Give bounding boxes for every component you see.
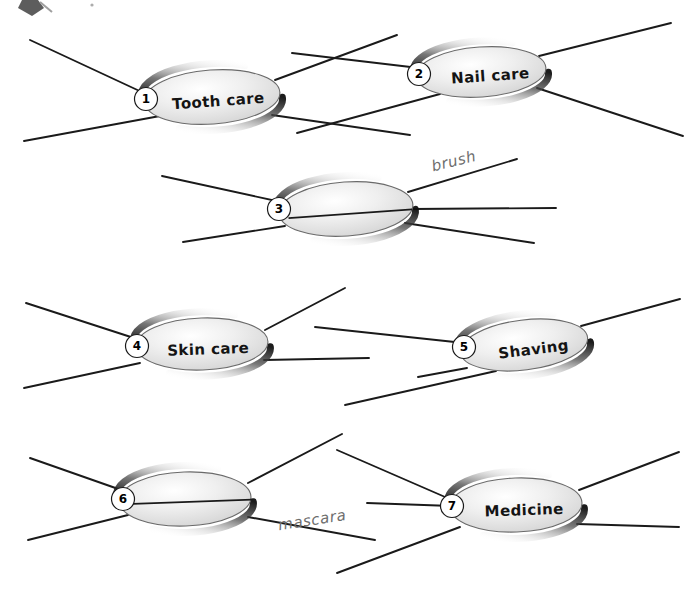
diagram-canvas: Tooth careNail careSkin careShavingMedic… bbox=[0, 0, 687, 591]
connector-line-3-5 bbox=[412, 208, 556, 209]
node-label-4: Skin care bbox=[167, 339, 250, 360]
node-label-7: Medicine bbox=[484, 500, 564, 521]
connector-line-2-4 bbox=[537, 88, 683, 136]
node-number-badge-6: 6 bbox=[112, 488, 135, 511]
node-number-badge-2: 2 bbox=[408, 63, 431, 86]
connector-line-6-2 bbox=[248, 434, 342, 483]
connector-line-1-3 bbox=[24, 116, 160, 141]
number-text-3: 3 bbox=[275, 202, 283, 216]
number-text-5: 5 bbox=[460, 340, 468, 354]
connector-line-1-4 bbox=[272, 115, 410, 135]
node-ellipse-6[interactable] bbox=[116, 463, 255, 535]
connector-line-4-2 bbox=[265, 288, 345, 330]
connector-line-4-1 bbox=[26, 303, 137, 339]
connector-line-5-1 bbox=[315, 327, 464, 343]
node-number-badge-1: 1 bbox=[135, 88, 158, 111]
handwritten-answer-brush: brush bbox=[430, 147, 479, 175]
connector-line-5-2 bbox=[581, 299, 680, 326]
connector-line-3-4 bbox=[405, 223, 534, 243]
connector-line-3-3 bbox=[183, 226, 285, 242]
node-ellipse-3[interactable] bbox=[275, 171, 418, 247]
worksheet-page: Tooth careNail careSkin careShavingMedic… bbox=[0, 0, 687, 591]
node-number-badge-3: 3 bbox=[268, 198, 291, 221]
connector-line-4-3 bbox=[24, 363, 140, 388]
number-text-7: 7 bbox=[448, 499, 456, 513]
connector-line-7-2 bbox=[579, 452, 679, 490]
handwritten-answer-mascara: mascara bbox=[277, 506, 348, 535]
node-ellipse-4[interactable]: Skin care bbox=[133, 309, 272, 378]
ellipse-body-6[interactable] bbox=[118, 470, 252, 529]
node-number-badge-7: 7 bbox=[441, 495, 464, 518]
connector-line-1-1 bbox=[30, 40, 146, 94]
node-ellipse-1[interactable]: Tooth care bbox=[140, 59, 285, 136]
corner-arrow-mark bbox=[18, 0, 94, 16]
number-text-1: 1 bbox=[142, 92, 150, 106]
connector-line-6-1 bbox=[30, 458, 124, 491]
connector-line-6-3 bbox=[28, 515, 128, 540]
connector-line-2-2 bbox=[539, 23, 671, 56]
number-text-6: 6 bbox=[119, 492, 127, 506]
number-text-2: 2 bbox=[415, 67, 423, 81]
node-ellipse-2[interactable]: Nail care bbox=[412, 36, 551, 108]
connector-line-7-1 bbox=[337, 450, 452, 500]
number-text-4: 4 bbox=[133, 339, 141, 353]
connector-line-7-4 bbox=[337, 527, 460, 573]
connector-line-7-3 bbox=[367, 503, 452, 506]
connector-line-3-1 bbox=[162, 176, 281, 202]
ellipse-nodes-group: Tooth careNail careSkin careShavingMedic… bbox=[112, 36, 594, 541]
node-ellipse-7[interactable]: Medicine bbox=[447, 469, 586, 541]
connector-line-7-5 bbox=[577, 524, 679, 527]
node-number-badge-4: 4 bbox=[126, 335, 149, 358]
connector-line-4-4 bbox=[264, 358, 369, 360]
connector-line-5-3 bbox=[418, 368, 467, 377]
connector-line-2-3 bbox=[297, 94, 440, 133]
node-number-badge-5: 5 bbox=[453, 336, 476, 359]
